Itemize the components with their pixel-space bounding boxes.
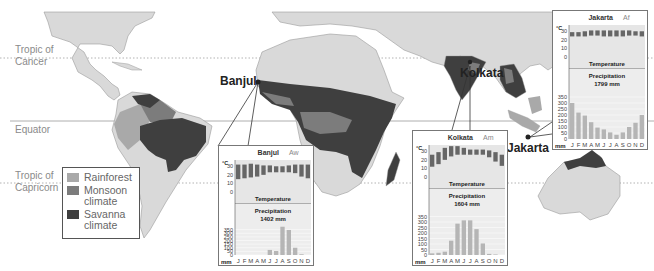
svg-text:D: D (306, 258, 311, 264)
svg-text:20: 20 (227, 172, 233, 178)
legend-item-rainforest: Rainforest (67, 172, 135, 183)
svg-text:D: D (640, 142, 645, 148)
svg-text:F: F (243, 258, 247, 264)
svg-text:150: 150 (558, 118, 567, 124)
svg-text:J: J (275, 258, 278, 264)
svg-text:S: S (287, 258, 291, 264)
city-label-banjul: Banjul (220, 74, 257, 88)
svg-text:A: A (589, 142, 593, 148)
svg-text:1604 mm: 1604 mm (454, 201, 480, 207)
kolkata-marker (468, 60, 472, 64)
svg-text:A: A (280, 258, 284, 264)
climate-chart-jakarta: JakartaAf°C0102030TemperaturePrecipitati… (552, 10, 648, 150)
svg-text:mm: mm (415, 259, 426, 265)
equator-label: Equator (15, 124, 50, 136)
svg-text:0: 0 (564, 54, 567, 60)
svg-text:350: 350 (558, 94, 567, 100)
svg-text:O: O (487, 258, 492, 264)
madagascar (386, 152, 400, 186)
svg-text:100: 100 (558, 124, 567, 130)
chart-svg-banjul: BanjulAw°C0102030TemperaturePrecipitatio… (219, 146, 315, 267)
svg-text:30: 30 (561, 28, 567, 34)
svg-text:Temperature: Temperature (589, 61, 626, 67)
svg-text:M: M (582, 142, 587, 148)
monsoon-swatch (67, 186, 79, 195)
svg-text:O: O (293, 258, 298, 264)
caribbean (112, 62, 142, 70)
svg-text:M: M (595, 142, 600, 148)
svg-text:150: 150 (418, 236, 427, 242)
svg-text:J: J (268, 258, 271, 264)
svg-text:300: 300 (418, 219, 427, 225)
svg-text:10: 10 (561, 45, 567, 51)
svg-text:0: 0 (424, 174, 427, 180)
svg-text:F: F (437, 258, 441, 264)
jakarta-marker (526, 135, 531, 140)
svg-text:50: 50 (421, 247, 427, 253)
svg-text:Temperature: Temperature (255, 196, 292, 202)
borneo (528, 96, 542, 114)
chart-svg-jakarta: JakartaAf°C0102030TemperaturePrecipitati… (553, 11, 649, 151)
svg-text:300: 300 (558, 100, 567, 106)
svg-text:J: J (462, 258, 465, 264)
svg-text:N: N (633, 142, 637, 148)
svg-text:J: J (571, 142, 574, 148)
svg-text:M: M (261, 258, 266, 264)
rainforest-swatch (67, 173, 79, 182)
svg-text:S: S (621, 142, 625, 148)
svg-text:1799 mm: 1799 mm (594, 81, 620, 87)
svg-text:A: A (474, 258, 478, 264)
svg-text:Precipitation: Precipitation (449, 193, 486, 199)
svg-text:250: 250 (418, 225, 427, 231)
tropic-of-cancer-label: Tropic of Cancer (15, 44, 54, 68)
svg-text:30: 30 (421, 148, 427, 154)
svg-text:Kolkata: Kolkata (448, 134, 473, 141)
svg-text:J: J (431, 258, 434, 264)
legend-item-monsoon: Monsoon climate (67, 185, 135, 207)
svg-text:Aw: Aw (289, 149, 300, 156)
svg-text:Am: Am (483, 134, 494, 141)
svg-text:1402 mm: 1402 mm (260, 216, 286, 222)
svg-text:J: J (609, 142, 612, 148)
svg-text:Jakarta: Jakarta (588, 14, 613, 21)
svg-text:J: J (602, 142, 605, 148)
city-label-jakarta: Jakarta (507, 141, 549, 155)
svg-text:A: A (614, 142, 618, 148)
city-label-kolkata: Kolkata (460, 66, 503, 80)
north-america (44, 12, 155, 100)
svg-text:30: 30 (227, 163, 233, 169)
svg-text:J: J (237, 258, 240, 264)
map-legend: Rainforest Monsoon climate Savanna clima… (62, 167, 140, 239)
svg-text:200: 200 (558, 112, 567, 118)
svg-text:M: M (455, 258, 460, 264)
svg-text:J: J (469, 258, 472, 264)
svg-text:D: D (500, 258, 505, 264)
svg-text:Precipitation: Precipitation (255, 208, 292, 214)
svg-text:0: 0 (230, 189, 233, 195)
svg-text:0: 0 (424, 252, 427, 258)
svg-text:O: O (627, 142, 632, 148)
svg-text:Af: Af (623, 14, 630, 21)
svg-text:A: A (449, 258, 453, 264)
svg-text:F: F (577, 142, 581, 148)
svg-text:Temperature: Temperature (449, 181, 486, 187)
svg-text:10: 10 (227, 180, 233, 186)
svg-text:0: 0 (564, 136, 567, 142)
svg-text:mm: mm (221, 259, 232, 265)
climate-chart-banjul: BanjulAw°C0102030TemperaturePrecipitatio… (218, 145, 314, 266)
savanna-swatch (67, 210, 79, 219)
svg-text:Precipitation: Precipitation (589, 73, 626, 79)
svg-text:10: 10 (421, 165, 427, 171)
svg-text:N: N (299, 258, 303, 264)
legend-item-savanna: Savanna climate (67, 209, 135, 231)
svg-text:mm: mm (555, 143, 566, 149)
svg-text:N: N (493, 258, 497, 264)
svg-text:M: M (248, 258, 253, 264)
svg-text:M: M (442, 258, 447, 264)
climate-chart-kolkata: KolkataAm°C0102030TemperaturePrecipitati… (412, 130, 508, 266)
svg-text:100: 100 (418, 241, 427, 247)
svg-text:200: 200 (418, 230, 427, 236)
svg-text:Banjul: Banjul (258, 149, 279, 157)
svg-text:350: 350 (224, 227, 233, 233)
svg-text:50: 50 (561, 130, 567, 136)
